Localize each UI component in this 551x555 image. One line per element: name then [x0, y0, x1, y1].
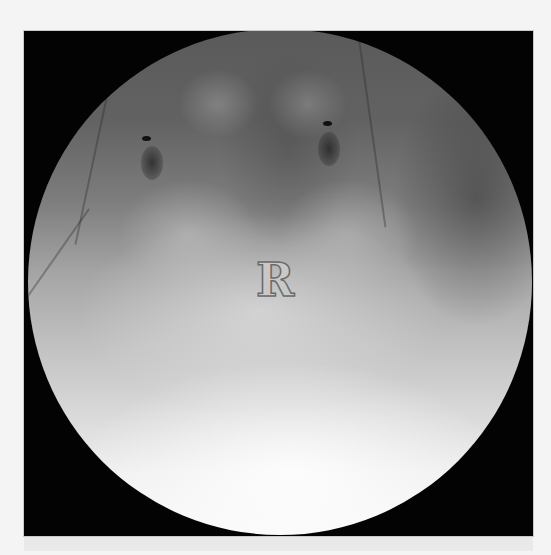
- vertebra-right: [268, 69, 348, 139]
- side-marker-label: R: [256, 257, 292, 303]
- marker-dot-left: [142, 136, 151, 141]
- marker-oval-left: [141, 146, 163, 180]
- circular-field-of-view: R: [28, 31, 532, 535]
- bladder-lobe-right: [278, 179, 418, 289]
- fluoroscopy-frame: R: [24, 31, 533, 536]
- marker-oval-right: [318, 132, 340, 166]
- bottom-strip: [24, 537, 533, 551]
- catheter-line: [28, 208, 90, 332]
- bladder-lobe-left: [118, 179, 258, 289]
- soft-tissue-shadow: [392, 69, 532, 329]
- marker-dot-right: [323, 121, 332, 126]
- catheter-line: [74, 49, 118, 245]
- vertebra-left: [178, 69, 258, 139]
